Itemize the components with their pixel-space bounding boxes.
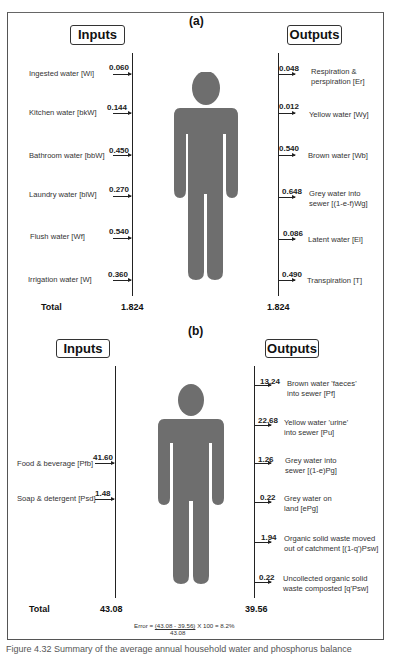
- input-value: 0.360: [108, 270, 128, 279]
- error-suffix: X 100 = 8.2%: [195, 622, 234, 629]
- output-label-line2: into sewer [Pf]: [287, 389, 335, 398]
- arrow-right-icon: [255, 463, 271, 464]
- panel-b-output-axis: [254, 366, 255, 598]
- panel-a-outputs-title: Outputs: [287, 25, 342, 45]
- input-label: Irrigation water [W]: [28, 275, 92, 284]
- arrow-right-icon: [113, 238, 131, 239]
- panel-b-total-in: 43.08: [100, 604, 123, 614]
- error-denominator: 43.08: [170, 629, 185, 636]
- arrow-right-icon: [113, 155, 131, 156]
- person-silhouette-icon: [153, 384, 229, 584]
- output-label-line1: Organic solid waste moved: [284, 534, 375, 543]
- arrow-right-icon: [95, 499, 114, 500]
- arrow-right-icon: [95, 463, 114, 464]
- output-label-line1: Transpiration [T]: [307, 276, 362, 285]
- input-label: Laundry water [blW]: [29, 190, 97, 199]
- error-numerator: (43.08 - 39.56): [155, 622, 196, 629]
- panel-b-input-axis: [115, 366, 116, 598]
- output-label-line2: out of catchment [(1-q')Psw]: [284, 544, 378, 553]
- input-value: 0.144: [107, 103, 127, 112]
- input-value: 1.48: [95, 489, 111, 498]
- output-value: 0.540: [279, 144, 299, 153]
- output-label-line1: Respiration &: [311, 67, 357, 76]
- figure-caption: Figure 4.32 Summary of the average annua…: [6, 644, 352, 654]
- input-value: 0.270: [109, 185, 129, 194]
- error-prefix: Error =: [134, 622, 155, 629]
- arrow-right-icon: [113, 280, 131, 281]
- output-label-line1: Grey water into: [309, 189, 361, 198]
- output-label-line1: Yellow water [Wy]: [309, 110, 369, 119]
- error-formula: Error = (43.08 - 39.56) X 100 = 8.2%: [134, 622, 234, 629]
- panel-a-total-out: 1.824: [267, 302, 290, 312]
- output-label-line1: Grey water into: [285, 456, 337, 465]
- arrow-right-icon: [279, 197, 295, 198]
- input-label: Ingested water [Wi]: [29, 69, 94, 78]
- arrow-right-icon: [113, 74, 131, 75]
- input-label: Kitchen water [bkW]: [29, 108, 97, 117]
- panel-a-total-label: Total: [41, 302, 62, 312]
- arrow-right-icon: [255, 542, 271, 543]
- arrow-right-icon: [255, 582, 271, 583]
- arrow-right-icon: [279, 280, 295, 281]
- output-label-line1: Brown water 'faeces': [287, 379, 357, 388]
- arrow-right-icon: [279, 113, 295, 114]
- arrow-right-icon: [279, 155, 295, 156]
- arrow-right-icon: [113, 196, 131, 197]
- output-value: 0.012: [279, 102, 299, 111]
- panel-a-input-axis: [132, 53, 133, 296]
- arrow-right-icon: [279, 74, 295, 75]
- person-silhouette-icon: [170, 72, 242, 280]
- panel-a-inputs-title: Inputs: [70, 25, 125, 45]
- panel-b-label: (b): [188, 324, 203, 338]
- input-label: Food & beverage [Pfb]: [17, 459, 93, 468]
- output-label-line2: waste composted [q'Psw]: [283, 584, 368, 593]
- output-label-line2: land [ePg]: [284, 504, 318, 513]
- panel-a-label: (a): [189, 14, 204, 28]
- output-label-line1: Grey water on: [284, 494, 332, 503]
- output-label-line1: Yellow water 'urine': [284, 418, 348, 427]
- panel-b-outputs-title: Outputs: [265, 339, 319, 358]
- panel-b-inputs-title: Inputs: [56, 339, 110, 358]
- arrow-right-icon: [279, 239, 295, 240]
- output-label-line1: Brown water [Wb]: [308, 151, 368, 160]
- arrow-right-icon: [113, 113, 131, 114]
- panel-b-total-label: Total: [29, 604, 50, 614]
- output-label-line2: perspiration [Er]: [311, 77, 365, 86]
- panel-a-output-axis: [278, 53, 279, 296]
- output-label-line1: Latent water [El]: [308, 235, 363, 244]
- output-label-line2: into sewer [Pu]: [284, 428, 334, 437]
- panel-a-total-in: 1.824: [121, 302, 144, 312]
- input-label: Soap & detergent [Psd]: [17, 494, 96, 503]
- output-value: 0.22: [259, 573, 275, 582]
- output-label-line2: sewer [(1-e)Pg]: [285, 466, 337, 475]
- panel-b-total-out: 39.56: [245, 604, 268, 614]
- output-label-line1: Uncollected organic solid: [283, 574, 367, 583]
- arrow-right-icon: [255, 385, 271, 386]
- input-value: 0.540: [109, 227, 129, 236]
- output-label-line2: sewer [(1-e-f)Wg]: [309, 199, 368, 208]
- input-value: 0.450: [109, 146, 129, 155]
- arrow-right-icon: [255, 425, 271, 426]
- output-value: 0.048: [279, 64, 299, 73]
- arrow-right-icon: [255, 502, 271, 503]
- input-label: Flush water [Wf]: [30, 232, 85, 241]
- input-value: 0.060: [109, 63, 129, 72]
- input-label: Bathroom water [bbW]: [29, 151, 105, 160]
